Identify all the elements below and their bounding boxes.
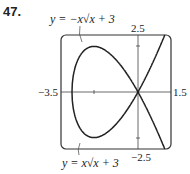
- leader-top: [79, 26, 82, 42]
- tick-ymin: −2.5: [131, 151, 151, 163]
- tick-ymax: 2.5: [131, 22, 145, 34]
- tick-xmin: −3.5: [38, 86, 58, 98]
- curve-top: [72, 46, 165, 149]
- top-curve-label: y = −x√x + 3: [50, 12, 115, 27]
- tick-xmax: 1.5: [173, 86, 187, 98]
- curve-bottom: [72, 35, 165, 138]
- bottom-curve-label: y = x√x + 3: [62, 156, 119, 171]
